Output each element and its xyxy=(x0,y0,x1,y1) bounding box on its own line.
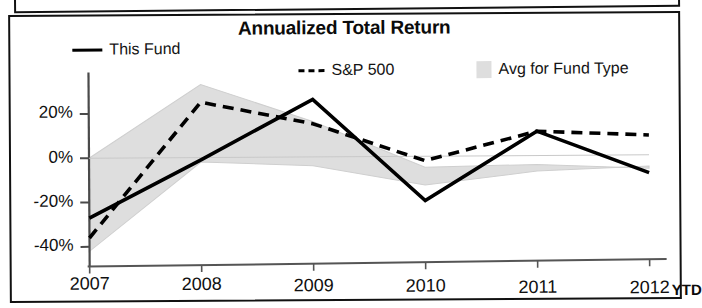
x-tick-label-2009: 2009 xyxy=(274,275,354,296)
y-tick-label-neg20: -20% xyxy=(11,192,73,212)
y-tick-label-20: 20% xyxy=(11,103,73,123)
x-axis-ytd-note: YTD xyxy=(672,281,702,298)
x-tick-label-2011: 2011 xyxy=(498,276,578,297)
x-tick-label-2008: 2008 xyxy=(162,274,242,295)
x-tick-label-2010: 2010 xyxy=(386,275,466,296)
plot-area xyxy=(10,13,684,305)
chart-inner: Annualized Total Return This Fund S&P 50… xyxy=(10,13,680,301)
avg-fund-type-band xyxy=(89,82,650,251)
y-tick-label-neg40: -40% xyxy=(11,236,73,256)
y-tick-label-0: 0% xyxy=(11,147,73,167)
annualized-total-return-chart-panel: Annualized Total Return This Fund S&P 50… xyxy=(8,11,682,303)
x-tick-label-2007: 2007 xyxy=(50,273,130,294)
